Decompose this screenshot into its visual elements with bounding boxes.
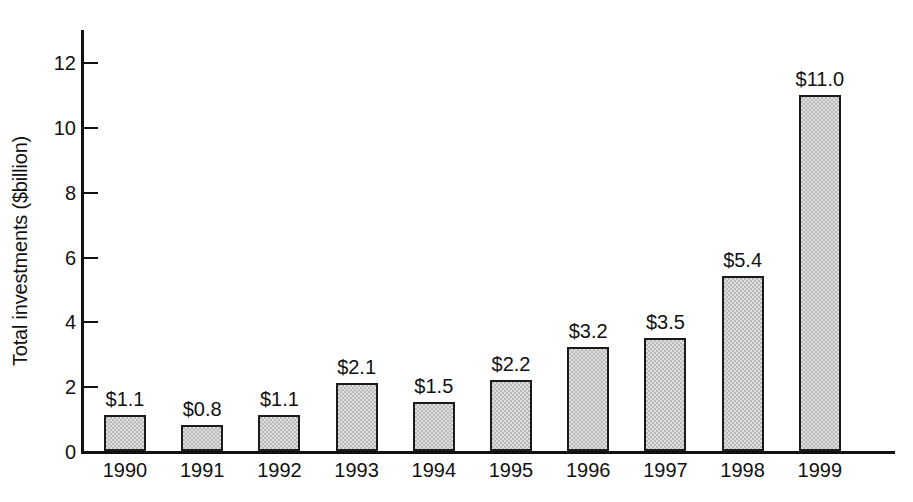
x-tick-label: 1999 <box>798 460 843 480</box>
bar-group: $1.11992 <box>258 450 300 451</box>
bar <box>258 415 300 451</box>
y-tick-12: 12 <box>84 62 98 64</box>
plot-area: 024681012 $1.11990$0.81991$1.11992$2.119… <box>81 30 895 454</box>
y-tick-label: 4 <box>65 312 76 332</box>
x-axis-line <box>81 451 895 454</box>
y-axis-title: Total investments ($billion) <box>0 0 40 502</box>
y-tick-label: 2 <box>65 377 76 397</box>
y-tick-10: 10 <box>84 127 98 129</box>
y-tick-6: 6 <box>84 257 98 259</box>
bar <box>490 380 532 451</box>
x-tick-label: 1995 <box>489 460 534 480</box>
x-tick-label: 1998 <box>720 460 765 480</box>
y-tick-label: 12 <box>54 53 76 73</box>
bar-group: $1.11990 <box>104 450 146 451</box>
bar-chart-figure: Total investments ($billion) 024681012 $… <box>0 0 913 502</box>
bar-value-label: $0.8 <box>183 399 222 419</box>
bar-value-label: $11.0 <box>796 69 845 89</box>
x-tick-label: 1990 <box>103 460 148 480</box>
bar-group: $3.51997 <box>644 450 686 451</box>
bar-value-label: $1.1 <box>260 389 299 409</box>
bar-value-label: $1.1 <box>106 389 145 409</box>
bar-group: $2.11993 <box>336 450 378 451</box>
bar-value-label: $5.4 <box>723 250 762 270</box>
x-tick-label: 1993 <box>334 460 379 480</box>
x-tick-label: 1992 <box>257 460 302 480</box>
bar <box>181 425 223 451</box>
bar-value-label: $3.5 <box>646 312 685 332</box>
y-tick-0: 0 <box>84 451 98 453</box>
bar <box>644 338 686 451</box>
x-tick-label: 1996 <box>566 460 611 480</box>
x-tick-label: 1991 <box>180 460 225 480</box>
bar-value-label: $1.5 <box>414 376 453 396</box>
bar <box>799 95 841 451</box>
x-tick-label: 1994 <box>412 460 457 480</box>
bar-value-label: $3.2 <box>569 321 608 341</box>
bar-group: $5.41998 <box>722 450 764 451</box>
bar <box>567 347 609 451</box>
y-axis-line <box>81 30 84 454</box>
y-tick-4: 4 <box>84 321 98 323</box>
y-tick-label: 8 <box>65 183 76 203</box>
bar-group: $0.81991 <box>181 450 223 451</box>
bar-group: $1.51994 <box>413 450 455 451</box>
y-tick-label: 0 <box>65 442 76 462</box>
y-tick-label: 10 <box>54 118 76 138</box>
bar-value-label: $2.2 <box>492 354 531 374</box>
bar-group: $2.21995 <box>490 450 532 451</box>
bar <box>336 383 378 451</box>
x-tick-label: 1997 <box>643 460 688 480</box>
bar <box>413 402 455 451</box>
y-tick-2: 2 <box>84 386 98 388</box>
bar-group: $3.21996 <box>567 450 609 451</box>
bar <box>104 415 146 451</box>
y-tick-8: 8 <box>84 192 98 194</box>
bar-value-label: $2.1 <box>337 357 376 377</box>
bar <box>722 276 764 451</box>
y-tick-label: 6 <box>65 248 76 268</box>
bar-group: $11.01999 <box>799 450 841 451</box>
